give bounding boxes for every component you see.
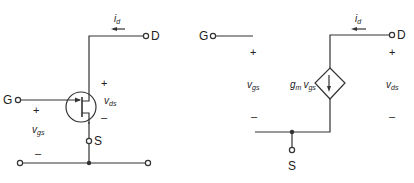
current-arrow-icon xyxy=(111,27,117,31)
vds-label: vds xyxy=(386,79,399,91)
rail-left-terminal xyxy=(17,160,22,165)
drain-label: D xyxy=(397,28,406,42)
drain-terminal xyxy=(389,32,394,37)
junction-dot xyxy=(87,161,90,164)
small-signal-labels: G D S id gmvgs + vgs – + vds – xyxy=(199,13,406,173)
source-label: S xyxy=(288,159,296,173)
drain-wire xyxy=(89,36,143,92)
gate-terminal xyxy=(210,33,215,38)
gate-label: G xyxy=(3,93,12,107)
source-arrow-icon xyxy=(327,86,331,92)
vgs-minus: – xyxy=(251,110,258,122)
vgs-plus: + xyxy=(250,46,256,58)
vgs-minus: – xyxy=(35,147,42,159)
drain-terminal xyxy=(143,33,148,38)
source-label: S xyxy=(94,134,102,148)
vds-plus: + xyxy=(389,46,395,58)
id-label: id xyxy=(114,13,121,25)
vgs-label: vgs xyxy=(247,79,260,92)
vds-label: vds xyxy=(104,95,117,107)
drain-wire xyxy=(330,35,389,68)
circuit-diagram: D G S id + vds – + vgs – G D S id gmvgs … xyxy=(0,0,414,183)
drain-label: D xyxy=(151,29,160,43)
jfet-circuit xyxy=(15,27,150,166)
vds-plus: + xyxy=(101,77,107,89)
dependent-source-diamond xyxy=(315,68,345,99)
source-wire xyxy=(255,99,330,132)
current-arrow-icon xyxy=(351,27,357,31)
gate-terminal xyxy=(15,97,20,102)
rail-right-terminal xyxy=(145,160,150,165)
transistor-body xyxy=(66,92,96,122)
vgs-label: vgs xyxy=(32,124,45,137)
source-terminal xyxy=(86,138,91,143)
id-label: id xyxy=(355,13,362,25)
gm-vgs-label: gmvgs xyxy=(290,79,316,92)
vds-minus: – xyxy=(389,110,396,122)
vds-minus: – xyxy=(101,111,108,123)
gate-arrow-icon xyxy=(75,98,81,103)
source-terminal xyxy=(289,147,294,152)
gate-label: G xyxy=(199,29,208,43)
vgs-plus: + xyxy=(33,104,39,116)
jfet-labels: D G S id + vds – + vgs – xyxy=(3,13,160,159)
